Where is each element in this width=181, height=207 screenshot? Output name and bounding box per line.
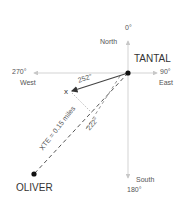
east-label: East — [159, 79, 173, 86]
north-degree-label: 0° — [125, 24, 132, 31]
south-degree-label: 180° — [127, 186, 141, 193]
south-label: South — [136, 176, 154, 183]
west-degree-label: 270° — [12, 68, 26, 75]
oliver-waypoint-icon — [31, 171, 36, 176]
position-marker: x — [64, 88, 68, 96]
oliver-label: OLIVER — [16, 183, 53, 193]
west-label: West — [20, 79, 36, 86]
east-degree-label: 90° — [160, 68, 171, 75]
north-label: North — [100, 38, 117, 45]
tantal-label: TANTAL — [134, 54, 171, 64]
tantal-waypoint-icon — [125, 70, 130, 75]
